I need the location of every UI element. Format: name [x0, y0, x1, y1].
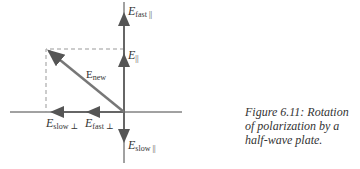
label-e-parallel: E||	[128, 48, 139, 63]
figure-caption: Figure 6.11: Rotation of polarization by…	[245, 105, 355, 147]
label-e-slow-parallel: Eslow ||	[128, 138, 156, 153]
vector-e-new	[49, 51, 124, 112]
label-e-fast-perp: Efast ⊥	[85, 116, 113, 131]
label-e-slow-perp: Eslow ⊥	[46, 116, 78, 131]
label-e-new: Enew	[86, 68, 106, 80]
label-e-fast-parallel: Efast ||	[128, 4, 152, 19]
